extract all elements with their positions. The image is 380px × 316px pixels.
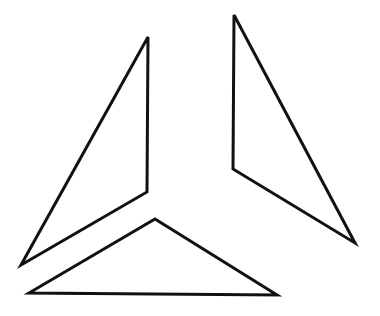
left-triangle bbox=[21, 37, 148, 265]
bottom-triangle bbox=[29, 219, 277, 295]
triangles-figure bbox=[0, 0, 380, 316]
right-triangle bbox=[233, 15, 355, 243]
diagram-canvas bbox=[0, 0, 380, 316]
